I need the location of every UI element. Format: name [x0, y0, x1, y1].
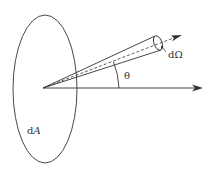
solid-angle-label: dΩ — [168, 49, 183, 60]
cone-edge-lower — [43, 50, 161, 88]
area-element-ellipse — [13, 15, 77, 163]
solid-angle-diagram: dΩ θ dA — [0, 0, 216, 169]
theta-label: θ — [124, 70, 130, 81]
area-label: dA — [27, 125, 41, 136]
cone-edge-upper — [43, 36, 155, 88]
area-label-A: A — [32, 125, 40, 136]
theta-arc — [114, 62, 120, 88]
direction-dashed-line — [43, 37, 176, 88]
direction-arrowhead — [171, 35, 182, 42]
